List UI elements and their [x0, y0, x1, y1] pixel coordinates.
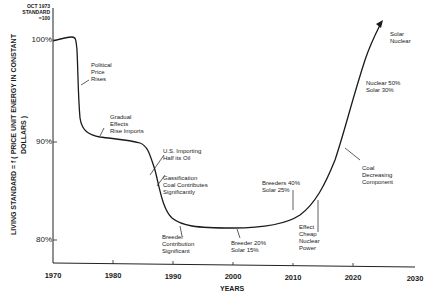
x-tick-2000: 2000	[218, 272, 248, 281]
x-tick-2020: 2020	[338, 273, 368, 282]
annotation-coal-decreasing: Coal Decreasing Component	[362, 165, 393, 186]
annotation-gassification: Gassification Coal Contributes Significa…	[163, 175, 208, 196]
baseline-note: OCT 1973 STANDARD =100	[14, 3, 50, 21]
annotation-effect-cheap-nuclear: Effect Cheap Nuclear Power	[299, 224, 320, 252]
x-axis	[53, 263, 415, 267]
annotation-breeder-contribution: Breeder Contribution Significant	[162, 234, 194, 255]
y-tick-80: 80%	[22, 235, 52, 244]
x-tick-1990: 1990	[158, 272, 188, 281]
annotation-nuclear-50-solar-30: Nuclear 50% Solar 30%	[366, 80, 400, 94]
x-tick-2030: 2030	[400, 274, 430, 283]
chart-canvas	[0, 0, 433, 306]
y-axis-title-line1: LIVING STANDARD = f ( PRICE UNIT ENERGY …	[10, 17, 17, 252]
x-tick-2010: 2010	[278, 273, 308, 282]
annotation-political-price-rises: Political Price Rises	[91, 62, 112, 83]
annotation-solar-nuclear: Solar Nuclear	[390, 31, 411, 45]
annotation-breeder-20-solar-15: Breeder 20% Solar 15%	[231, 240, 266, 254]
y-axis-title-line2: DOLLARS )	[20, 85, 27, 185]
living-standard-curve	[53, 25, 380, 228]
annotation-breeders-40-solar-25: Breeders 40% Solar 25%	[262, 180, 300, 194]
x-axis-title: YEARS	[220, 285, 244, 292]
y-tick-100: 100%	[22, 35, 52, 44]
x-tick-1980: 1980	[98, 271, 128, 280]
annotation-gradual-effects: Gradual Effects Rise Imports	[110, 114, 144, 135]
x-tick-1970: 1970	[38, 271, 68, 280]
annotation-arrows	[81, 80, 360, 238]
annotation-us-importing: U.S. Importing Half its Oil	[163, 148, 201, 162]
curve-arrowhead	[376, 20, 383, 28]
